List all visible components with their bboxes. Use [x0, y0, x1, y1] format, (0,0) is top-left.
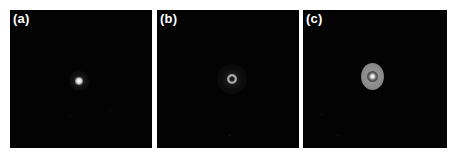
noise-speck: [70, 115, 71, 116]
noise-speck: [110, 110, 111, 111]
image-panel-c: (c): [303, 10, 447, 148]
noise-speck: [229, 135, 230, 136]
panel-label-c: (c): [306, 11, 323, 26]
panel-label-a: (a): [13, 11, 30, 26]
panel-label-b: (b): [160, 11, 177, 26]
focal-spot: [75, 77, 83, 85]
image-panel-b: (b): [157, 10, 299, 148]
noise-speck: [337, 135, 338, 136]
image-panel-a: (a): [10, 10, 152, 148]
noise-speck: [321, 114, 322, 115]
donut-spot: [227, 74, 237, 84]
elliptical-spot-center: [367, 71, 378, 82]
